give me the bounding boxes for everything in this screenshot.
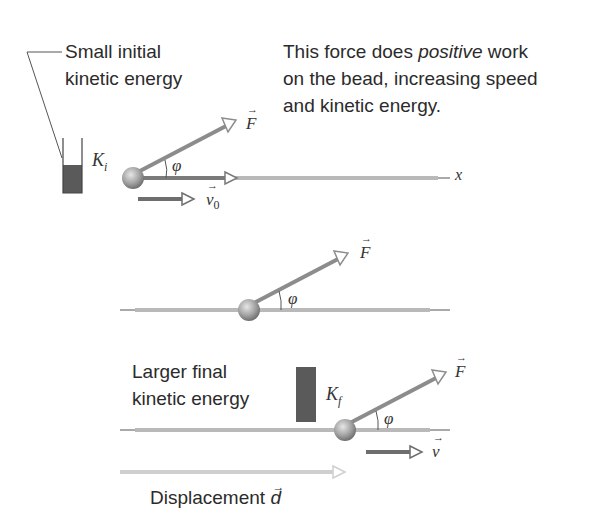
work-caption-line2: on the bead, increasing speed [283, 67, 538, 91]
angle-label-middle: φ [288, 289, 297, 309]
bead-middle [238, 299, 260, 321]
ki-energy-container [63, 138, 82, 193]
angle-arc-top [165, 160, 167, 178]
velocity-arrow-v0 [138, 193, 194, 205]
work-caption-emphasis: positive [418, 41, 482, 62]
displacement-symbol: →d [270, 487, 281, 508]
angle-label-top: φ [172, 156, 181, 176]
horizontal-force-component-arrow [140, 172, 237, 184]
initial-ke-caption-line2: kinetic energy [65, 67, 182, 91]
final-ke-caption-line1: Larger final [132, 360, 227, 384]
displacement-caption: Displacement →d [150, 486, 281, 510]
leader-line [27, 52, 62, 158]
force-arrow-top [138, 118, 236, 172]
work-caption-text: This force does [283, 41, 418, 62]
initial-ke-caption-line1: Small initial [65, 40, 161, 64]
work-caption-line1: This force does positive work [283, 40, 528, 64]
force-arrow-bottom [348, 370, 446, 424]
velocity-label-v0: →v0 [206, 190, 220, 213]
bead-bottom [334, 419, 356, 441]
force-label-bottom: →F [455, 362, 465, 382]
velocity-label-v: →v [432, 442, 440, 462]
ki-label: Ki [92, 150, 107, 175]
bead-top [122, 167, 144, 189]
angle-arc-bottom [376, 411, 378, 430]
kf-label: Kf [326, 384, 341, 409]
middle-panel [120, 251, 450, 321]
x-axis-label: x [455, 166, 462, 184]
final-ke-caption-line2: kinetic energy [132, 387, 249, 411]
angle-label-bottom: φ [384, 409, 393, 429]
kf-energy-bar [296, 367, 316, 422]
work-caption-line3: and kinetic energy. [283, 94, 441, 118]
force-arrow-middle [252, 251, 348, 304]
displacement-arrow [120, 466, 345, 478]
force-label-top: →F [246, 114, 256, 134]
angle-arc-middle [279, 291, 281, 310]
work-caption-text: work [483, 41, 528, 62]
displacement-text: Displacement [150, 487, 265, 508]
force-label-middle: →F [360, 243, 370, 263]
velocity-arrow-v [366, 446, 422, 458]
